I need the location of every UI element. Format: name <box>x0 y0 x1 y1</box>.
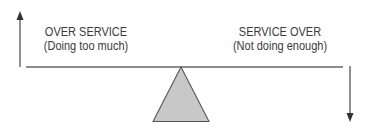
service-over-subtitle: (Not doing enough) <box>227 39 333 53</box>
over-service-label: OVER SERVICE (Doing too much) <box>33 25 139 53</box>
over-service-title: OVER SERVICE <box>33 25 139 39</box>
fulcrum-triangle <box>153 67 209 122</box>
diagram-graphics <box>0 0 371 132</box>
seesaw-balance-diagram: OVER SERVICE (Doing too much) SERVICE OV… <box>0 0 371 132</box>
arrow-up-icon <box>17 11 24 67</box>
service-over-label: SERVICE OVER (Not doing enough) <box>227 25 333 53</box>
over-service-subtitle: (Doing too much) <box>33 39 139 53</box>
arrow-down-icon <box>347 66 354 122</box>
service-over-title: SERVICE OVER <box>227 25 333 39</box>
